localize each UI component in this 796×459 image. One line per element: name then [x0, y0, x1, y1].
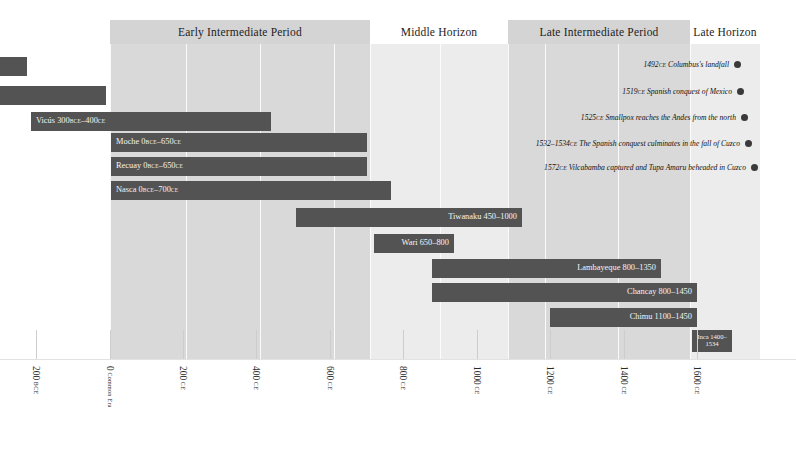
- bar-wari-label: Wari 650–800: [402, 239, 449, 247]
- bar-row-1[interactable]: [0, 57, 27, 76]
- tick-1000-ce-value: 1000: [472, 366, 482, 385]
- tick-800-ce-mark: [403, 330, 404, 359]
- bar-nasca-label: Nasca 0BCE–700CE: [116, 186, 178, 194]
- tick-600-ce-value: 600: [325, 366, 335, 380]
- tick-0-ce-era: Common Era: [107, 371, 113, 408]
- event-cuzco-marker-dot: [745, 140, 752, 147]
- tick-600-ce-mark: [330, 330, 331, 359]
- gridline-4: [370, 44, 371, 359]
- tick-1400-ce-label: 1400 CE: [619, 366, 628, 395]
- tick-1000-ce-era: CE: [474, 385, 480, 395]
- bar-tiwanaku[interactable]: Tiwanaku 450–1000: [296, 208, 522, 227]
- tick-400-ce-label: 400 CE: [251, 366, 260, 390]
- event-columbus-text: 1492CE Columbus's landfall: [643, 60, 729, 69]
- gridline-10: [760, 44, 761, 359]
- event-cuzco: 1532–1534CE The Spanish conquest culmina…: [536, 137, 752, 149]
- bar-lambayeque-label: Lambayeque 800–1350: [577, 264, 656, 272]
- tick-1000-ce-label: 1000 CE: [472, 366, 481, 395]
- gridline-0: [110, 44, 111, 359]
- bar-vicus[interactable]: Vicús 300BCE–400CE: [31, 112, 271, 131]
- bar-wari[interactable]: Wari 650–800: [374, 234, 454, 253]
- bar-moche-label: Moche 0BCE–650CE: [116, 138, 181, 146]
- bar-inca-label: Inca 1400–1534: [692, 334, 732, 348]
- event-vilcabamba-text: 1572CE Vilcabamba captured and Tupa Amar…: [544, 163, 746, 172]
- event-smallpox: 1525CE Smallpox reaches the Andes from t…: [581, 111, 748, 123]
- tick-200-bce-mark: [36, 330, 37, 359]
- tick-1000-ce-mark: [477, 330, 478, 359]
- tick-400-ce-mark: [256, 330, 257, 359]
- bar-chimu-label: Chimu 1100–1450: [630, 313, 692, 321]
- tick-1400-ce-value: 1400: [619, 366, 629, 385]
- tick-600-ce-label: 600 CE: [325, 366, 334, 390]
- event-smallpox-text: 1525CE Smallpox reaches the Andes from t…: [581, 113, 736, 122]
- event-columbus: 1492CE Columbus's landfall: [643, 58, 741, 70]
- tick-1600-ce-mark: [697, 330, 698, 359]
- bar-nasca[interactable]: Nasca 0BCE–700CE: [111, 181, 391, 200]
- gridline-2: [260, 44, 261, 359]
- period-header-middle-horizon: Middle Horizon: [370, 20, 508, 44]
- bar-chancay[interactable]: Chancay 800–1450: [432, 283, 697, 302]
- event-columbus-marker-dot: [734, 61, 741, 68]
- event-mexico: 1519CE Spanish conquest of Mexico: [622, 85, 744, 97]
- tick-1400-ce-mark: [624, 330, 625, 359]
- tick-0-ce-mark: [110, 330, 111, 359]
- axis-line: [0, 359, 796, 360]
- tick-1400-ce-era: CE: [621, 385, 627, 395]
- event-vilcabamba: 1572CE Vilcabamba captured and Tupa Amar…: [544, 161, 758, 173]
- tick-800-ce-label: 800 CE: [398, 366, 407, 390]
- gridline-7: [545, 44, 546, 359]
- period-header-late-intermediate-period: Late Intermediate Period: [508, 20, 690, 44]
- tick-1200-ce-era: CE: [547, 385, 553, 395]
- tick-600-ce-era: CE: [327, 380, 333, 390]
- gridline-1: [186, 44, 187, 359]
- period-band-early-intermediate-period: [110, 44, 370, 359]
- tick-1200-ce-label: 1200 CE: [545, 366, 554, 395]
- bar-inca[interactable]: Inca 1400–1534: [692, 330, 732, 352]
- tick-1200-ce-mark: [550, 330, 551, 359]
- tick-200-ce-era: CE: [180, 380, 186, 390]
- gridline-5: [440, 44, 441, 359]
- bar-tiwanaku-label: Tiwanaku 450–1000: [448, 213, 517, 221]
- tick-200-bce-era: BCE: [33, 380, 39, 394]
- bar-vicus-label: Vicús 300BCE–400CE: [36, 117, 105, 125]
- event-mexico-text: 1519CE Spanish conquest of Mexico: [622, 87, 732, 96]
- tick-1600-ce-label: 1600 CE: [692, 366, 701, 395]
- tick-0-ce-label: 0 Common Era: [105, 366, 114, 408]
- tick-200-bce-value: 200: [31, 366, 41, 380]
- bar-lambayeque[interactable]: Lambayeque 800–1350: [432, 259, 661, 278]
- bar-row-2[interactable]: [0, 86, 106, 105]
- period-band-middle-horizon: [370, 44, 508, 359]
- event-cuzco-text: 1532–1534CE The Spanish conquest culmina…: [536, 139, 740, 148]
- period-header-early-intermediate-period: Early Intermediate Period: [110, 20, 370, 44]
- tick-800-ce-era: CE: [400, 380, 406, 390]
- gridline-6: [508, 44, 509, 359]
- bar-recuay-label: Recuay 0BCE–650CE: [116, 162, 183, 170]
- tick-1600-ce-value: 1600: [692, 366, 702, 385]
- event-smallpox-marker-dot: [741, 114, 748, 121]
- tick-400-ce-value: 400: [251, 366, 261, 380]
- period-header-late-horizon: Late Horizon: [690, 20, 760, 44]
- bar-chimu[interactable]: Chimu 1100–1450: [550, 308, 697, 327]
- tick-1600-ce-era: CE: [694, 385, 700, 395]
- gridline-3: [334, 44, 335, 359]
- bar-chancay-label: Chancay 800–1450: [627, 288, 692, 296]
- tick-1200-ce-value: 1200: [545, 366, 555, 385]
- bar-moche[interactable]: Moche 0BCE–650CE: [111, 133, 367, 152]
- timeline-chart: Early Intermediate PeriodMiddle HorizonL…: [0, 0, 796, 459]
- event-mexico-marker-dot: [737, 88, 744, 95]
- tick-200-ce-label: 200 CE: [178, 366, 187, 390]
- tick-400-ce-era: CE: [253, 380, 259, 390]
- tick-200-ce-value: 200: [178, 366, 188, 380]
- tick-200-ce-mark: [183, 330, 184, 359]
- bar-recuay[interactable]: Recuay 0BCE–650CE: [111, 157, 367, 176]
- tick-800-ce-value: 800: [398, 366, 408, 380]
- event-vilcabamba-marker-dot: [751, 164, 758, 171]
- tick-200-bce-label: 200 BCE: [31, 366, 40, 394]
